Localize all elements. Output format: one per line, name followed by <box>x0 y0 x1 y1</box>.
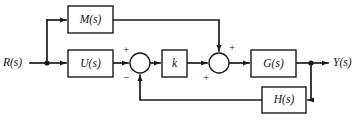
gain-block-k-label: k <box>172 57 178 69</box>
summing-junction-2[interactable] <box>209 53 229 73</box>
path-y-to-h <box>308 63 311 100</box>
system-output-label: Y(s) <box>333 56 352 69</box>
block-diagram-canvas: M(s) U(s) k G(s) H(s) + − + + R(s) Y(s) <box>0 0 359 124</box>
plant-block-g-label: G(s) <box>263 57 284 70</box>
controller-block-u-label: U(s) <box>80 57 101 70</box>
reference-input-label: R(s) <box>2 56 22 69</box>
summing-junction-2-plus-sign-top: + <box>229 41 235 53</box>
summing-junction-1-plus-sign: + <box>123 43 129 55</box>
summing-junction-2-plus-sign-bottom: + <box>203 71 209 83</box>
block-diagram-svg: M(s) U(s) k G(s) H(s) + − + + R(s) Y(s) <box>0 0 359 124</box>
input-branch-dot <box>44 60 49 65</box>
feedback-block-h-label: H(s) <box>273 93 295 106</box>
summing-junction-1[interactable] <box>130 53 150 73</box>
summing-junction-1-minus-sign: − <box>123 71 129 83</box>
output-branch-dot <box>308 60 313 65</box>
feedforward-block-m-label: M(s) <box>79 13 102 26</box>
path-h-to-sum1 <box>140 75 262 100</box>
